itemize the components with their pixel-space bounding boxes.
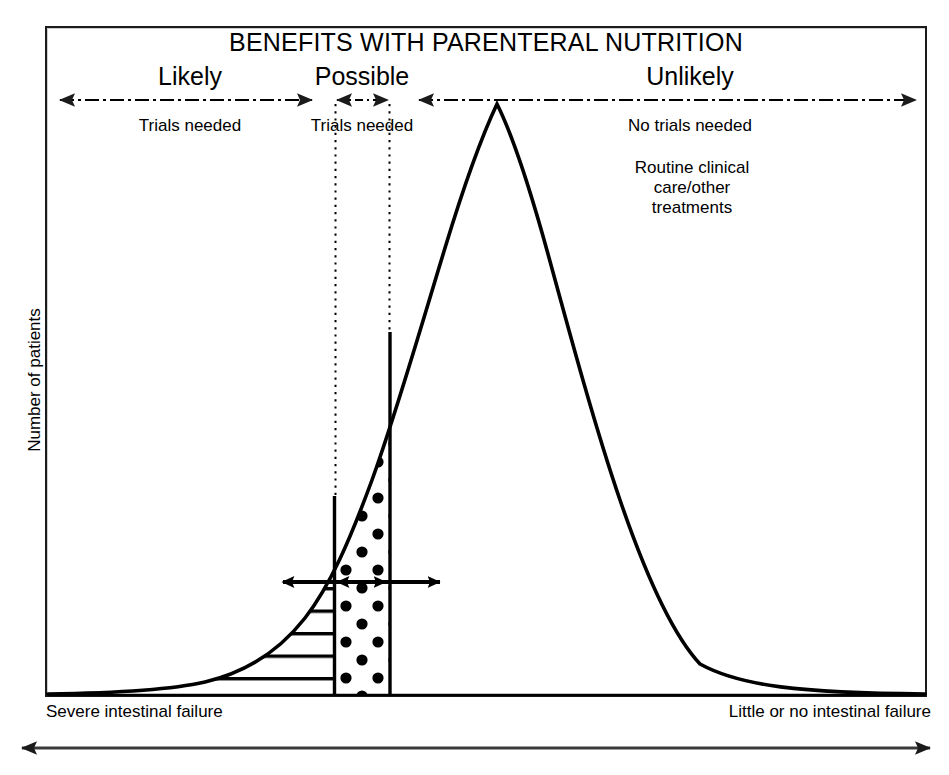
figure-graphics	[0, 0, 949, 775]
distribution-curve	[48, 104, 925, 694]
figure-root: BENEFITS WITH PARENTERAL NUTRITION Likel…	[0, 0, 949, 775]
